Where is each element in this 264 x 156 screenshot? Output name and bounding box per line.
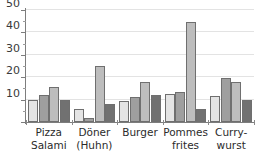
x-axis-label-line2: frites bbox=[163, 139, 209, 152]
bar bbox=[186, 22, 196, 122]
x-tick bbox=[26, 120, 27, 125]
bar bbox=[74, 109, 84, 122]
x-axis-label-line1: Pommes bbox=[163, 126, 208, 138]
bar-group bbox=[72, 10, 118, 122]
x-tick bbox=[208, 120, 209, 125]
x-axis-label-line2: (Huhn) bbox=[72, 139, 118, 152]
bar bbox=[130, 97, 140, 122]
bar bbox=[221, 78, 231, 122]
x-axis-label: PizzaSalami bbox=[26, 126, 72, 152]
plot-area bbox=[26, 10, 254, 122]
bar-group bbox=[163, 10, 209, 122]
bar bbox=[175, 92, 185, 122]
y-tick-10 bbox=[21, 100, 26, 101]
y-tick-label-40: 40 bbox=[0, 20, 20, 31]
y-tick-20 bbox=[21, 77, 26, 78]
x-axis-label: Pommesfrites bbox=[163, 126, 209, 152]
y-minor-tick-15 bbox=[23, 88, 26, 89]
x-axis-label: Curry-wurst bbox=[208, 126, 254, 152]
bar bbox=[28, 100, 38, 122]
bar bbox=[39, 95, 49, 122]
bar-group bbox=[117, 10, 163, 122]
bar bbox=[210, 96, 220, 122]
x-axis-label-line2: Salami bbox=[26, 139, 72, 152]
y-minor-tick-25 bbox=[23, 66, 26, 67]
x-axis-label-line1: Burger bbox=[122, 126, 157, 138]
bar-group bbox=[26, 10, 72, 122]
bar bbox=[151, 95, 161, 122]
y-minor-tick-5 bbox=[23, 111, 26, 112]
y-tick-50 bbox=[21, 10, 26, 11]
y-tick-label-30: 30 bbox=[0, 43, 20, 54]
y-minor-tick-35 bbox=[23, 44, 26, 45]
x-axis-label-line1: Curry- bbox=[215, 126, 247, 138]
x-tick bbox=[117, 120, 118, 125]
bar-chart: 1020304050 PizzaSalamiDöner(Huhn)BurgerP… bbox=[0, 0, 264, 156]
bar bbox=[231, 82, 241, 122]
y-tick-label-10: 10 bbox=[0, 88, 20, 99]
bar bbox=[84, 118, 94, 122]
y-tick-label-50: 50 bbox=[0, 0, 20, 9]
bar bbox=[105, 104, 115, 122]
bar bbox=[242, 100, 252, 122]
x-axis-label: Döner(Huhn) bbox=[72, 126, 118, 152]
x-axis-label-line2: wurst bbox=[208, 139, 254, 152]
bar bbox=[95, 66, 105, 122]
bar bbox=[196, 109, 206, 122]
y-tick-40 bbox=[21, 32, 26, 33]
bar-group bbox=[208, 10, 254, 122]
x-axis-label-line1: Döner bbox=[78, 126, 110, 138]
x-tick bbox=[72, 120, 73, 125]
x-axis-label: Burger bbox=[117, 126, 163, 139]
x-tick bbox=[163, 120, 164, 125]
x-axis-labels: PizzaSalamiDöner(Huhn)BurgerPommesfrites… bbox=[26, 126, 258, 156]
x-tick bbox=[254, 120, 255, 125]
y-tick-label-20: 20 bbox=[0, 65, 20, 76]
x-axis-label-line1: Pizza bbox=[36, 126, 62, 138]
bar bbox=[60, 100, 70, 122]
bar bbox=[165, 94, 175, 122]
x-axis-line bbox=[26, 122, 254, 123]
y-tick-30 bbox=[21, 55, 26, 56]
y-minor-tick-45 bbox=[23, 21, 26, 22]
bar bbox=[119, 101, 129, 122]
bar bbox=[49, 87, 59, 122]
bar bbox=[140, 82, 150, 122]
